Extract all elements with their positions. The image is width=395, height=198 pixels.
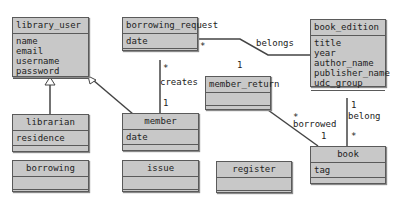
class-attributes: title year author_name publisher_name ud… (311, 36, 385, 91)
attribute: udc_group (314, 78, 382, 88)
class-operations (311, 91, 385, 99)
class-attributes: date (123, 34, 197, 49)
multiplicity-label: 1 (163, 98, 168, 108)
class-operations (123, 145, 198, 153)
class-attributes (206, 93, 270, 106)
association-label: borrowed (293, 119, 336, 129)
attribute: username (16, 56, 85, 66)
attribute: name (16, 36, 85, 46)
multiplicity-label: * (351, 131, 356, 141)
class-name: librarian (13, 115, 88, 131)
attribute: tag (314, 165, 382, 175)
class-attributes: name email username password (13, 34, 88, 79)
class-operations (311, 178, 385, 186)
class-name: borrowing_request (123, 18, 197, 34)
association-label: belong (348, 111, 381, 121)
attribute: date (126, 36, 194, 46)
class-borrowing-request[interactable]: borrowing_request date (122, 17, 198, 51)
attribute: residence (16, 133, 85, 143)
association-label: creates (160, 77, 198, 87)
class-attributes: tag (311, 163, 385, 178)
class-name: book_edition (311, 20, 385, 36)
class-attributes (13, 177, 88, 190)
class-attributes: residence (13, 131, 88, 146)
attribute: date (126, 132, 195, 142)
multiplicity-label: * (163, 63, 168, 73)
class-borrowing[interactable]: borrowing (12, 160, 89, 192)
class-book[interactable]: book tag (310, 146, 386, 184)
attribute: email (16, 46, 85, 56)
attribute: title (314, 38, 382, 48)
class-operations (217, 191, 291, 198)
class-operations (123, 190, 198, 198)
class-name: library_user (13, 18, 88, 34)
multiplicity-label: 1 (321, 131, 326, 141)
class-register[interactable]: register (216, 161, 292, 193)
class-library-user[interactable]: library_user name email username passwor… (12, 17, 89, 77)
association-label: belongs (256, 38, 294, 48)
class-name: book (311, 147, 385, 163)
class-name: member (123, 114, 198, 130)
class-attributes (123, 177, 198, 190)
class-operations (13, 190, 88, 198)
attribute: year (314, 48, 382, 58)
class-attributes: date (123, 130, 198, 145)
class-operations (123, 49, 197, 57)
multiplicity-label: * (200, 41, 205, 51)
class-name: register (217, 162, 291, 178)
multiplicity-label: 1 (237, 60, 242, 70)
class-member-return[interactable]: member_return (205, 76, 271, 110)
class-book-edition[interactable]: book_edition title year author_name publ… (310, 19, 386, 87)
attribute: password (16, 66, 85, 76)
class-issue[interactable]: issue (122, 160, 199, 192)
attribute: author_name (314, 58, 382, 68)
class-librarian[interactable]: librarian residence (12, 114, 89, 152)
multiplicity-label: 1 (351, 100, 356, 110)
class-name: member_return (206, 77, 270, 93)
class-operations (13, 79, 88, 87)
class-operations (206, 106, 270, 114)
class-member[interactable]: member date (122, 113, 199, 151)
class-operations (13, 146, 88, 154)
class-attributes (217, 178, 291, 191)
attribute: publisher_name (314, 68, 382, 78)
class-name: borrowing (13, 161, 88, 177)
class-name: issue (123, 161, 198, 177)
